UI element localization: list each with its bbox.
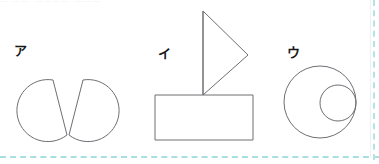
figure-label-a: ア [14,44,27,57]
figure-concentric-circles [282,62,366,146]
selection-dash-bottom [0,156,379,158]
sailboat-sail [203,11,248,95]
sailboat-hull [155,95,253,140]
figure-label-u: ウ [287,46,300,59]
figure-label-i: イ [158,47,171,60]
sector-right-shape [69,80,119,142]
sector-left-shape [17,80,67,142]
inner-circle [320,85,356,121]
worksheet-canvas: — —— ———— ——— ア イ ウ [0,0,379,164]
figure-sailboat [150,4,260,144]
selection-dash-right [373,0,375,160]
figure-sector-pair [6,58,130,146]
page-frame-hairline [370,0,371,157]
